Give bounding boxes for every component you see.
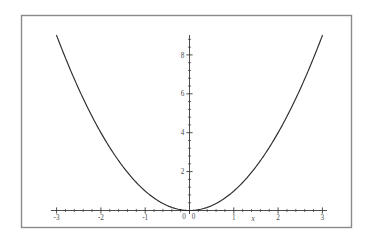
x-origin-zero-label: 0 <box>182 213 186 221</box>
x-axis-tick-label: -1 <box>142 214 148 222</box>
plot-canvas: -3-2-1123 2468 x 0 0 <box>0 0 371 245</box>
x-axis-tick-label: 2 <box>276 214 280 222</box>
plot-frame-border <box>22 16 352 228</box>
x-axis-tick-label: 3 <box>321 214 325 222</box>
y-axis-tick-label: 2 <box>181 168 185 176</box>
y-axis-tick-label: 6 <box>181 90 185 98</box>
plot-figure: -3-2-1123 2468 x 0 0 <box>0 0 371 245</box>
x-axis-tick-label: 1 <box>232 214 236 222</box>
y-axis-tick-label: 4 <box>181 129 185 137</box>
y-axis-tick-label: 8 <box>181 52 185 60</box>
x-axis-tick-label: -3 <box>54 214 60 222</box>
x-axis-tick-label: -2 <box>98 214 104 222</box>
y-origin-zero-label: 0 <box>192 213 196 221</box>
